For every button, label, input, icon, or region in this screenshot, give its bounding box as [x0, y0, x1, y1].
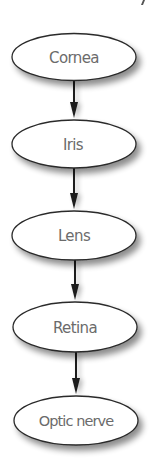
- node-label-iris: Iris: [63, 136, 84, 154]
- node-iris: Iris: [12, 120, 136, 168]
- node-label-cornea: Cornea: [49, 49, 99, 67]
- eye-light-path-flowchart: Cornea Iris Lens Retina Optic nerve: [0, 0, 150, 470]
- arrowhead-icon: [70, 193, 78, 209]
- node-label-optic-nerve: Optic nerve: [39, 413, 115, 429]
- arrow-lens-to-retina: [71, 260, 79, 300]
- node-cornea: Cornea: [12, 34, 136, 81]
- arrowhead-icon: [72, 378, 80, 394]
- node-optic-nerve: Optic nerve: [14, 396, 138, 445]
- arrow-cornea-to-iris: [70, 80, 78, 118]
- node-retina: Retina: [13, 302, 137, 352]
- node-label-retina: Retina: [53, 319, 97, 337]
- arrow-iris-to-lens: [70, 168, 78, 209]
- cropped-fragment: [141, 0, 145, 5]
- arrowhead-icon: [70, 102, 78, 118]
- arrowhead-icon: [71, 284, 79, 300]
- node-lens: Lens: [12, 211, 136, 260]
- arrow-retina-to-optic-nerve: [72, 352, 80, 394]
- node-label-lens: Lens: [58, 227, 91, 245]
